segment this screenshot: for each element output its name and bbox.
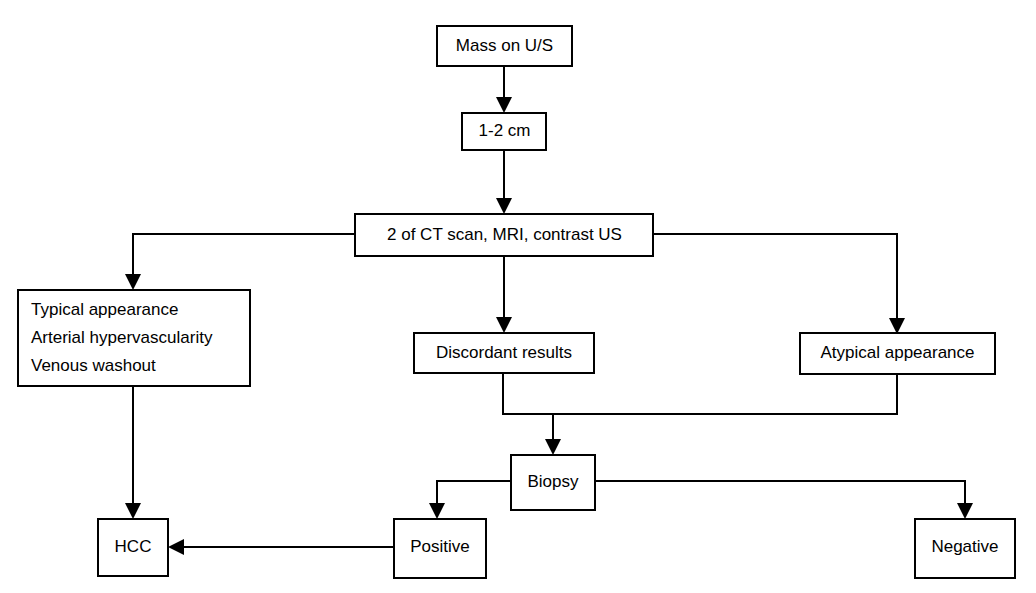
node-biopsy[interactable]: Biopsy — [511, 455, 595, 510]
node-typical-line2: Arterial hypervascularity — [31, 328, 213, 347]
edge-typical-to-hcc — [125, 386, 141, 519]
node-discordant-label: Discordant results — [436, 343, 572, 362]
node-hcc-label: HCC — [115, 537, 152, 556]
node-atypical-appearance[interactable]: Atypical appearance — [800, 333, 995, 374]
node-negative-label: Negative — [931, 537, 998, 556]
node-mass-on-us[interactable]: Mass on U/S — [437, 26, 572, 66]
node-negative[interactable]: Negative — [915, 519, 1015, 578]
node-typical-appearance[interactable]: Typical appearance Arterial hypervascula… — [18, 290, 250, 386]
node-mass-on-us-label: Mass on U/S — [456, 36, 553, 55]
edge-imaging-to-atypical — [653, 234, 905, 334]
node-biopsy-label: Biopsy — [527, 472, 579, 491]
node-positive-label: Positive — [410, 537, 470, 556]
node-positive[interactable]: Positive — [394, 519, 486, 578]
edge-imaging-to-discordant — [496, 256, 512, 333]
edge-biopsy-to-negative — [595, 481, 973, 519]
edge-size-to-imaging — [496, 150, 512, 214]
edge-biopsy-to-positive — [429, 481, 511, 519]
node-imaging-label: 2 of CT scan, MRI, contrast US — [387, 225, 622, 244]
node-typical-line3: Venous washout — [31, 356, 156, 375]
node-imaging[interactable]: 2 of CT scan, MRI, contrast US — [355, 214, 653, 256]
flowchart-canvas: Mass on U/S 1-2 cm 2 of CT scan, MRI, co… — [0, 0, 1036, 593]
edge-imaging-to-typical — [125, 234, 355, 290]
node-size[interactable]: 1-2 cm — [462, 113, 546, 150]
flowchart-svg: Mass on U/S 1-2 cm 2 of CT scan, MRI, co… — [0, 0, 1036, 593]
node-size-label: 1-2 cm — [479, 121, 531, 140]
edge-positive-to-hcc — [168, 539, 394, 555]
node-hcc[interactable]: HCC — [98, 519, 168, 576]
node-atypical-label: Atypical appearance — [820, 343, 974, 362]
edge-discordant-atypical-to-biopsy — [503, 373, 897, 455]
edge-mass-to-size — [496, 66, 512, 113]
node-typical-line1: Typical appearance — [31, 300, 178, 319]
node-discordant-results[interactable]: Discordant results — [414, 333, 594, 373]
